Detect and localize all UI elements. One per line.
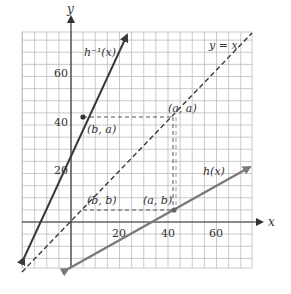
tick-label-y-40: 40 xyxy=(54,116,68,129)
point-label-a-b: (a, b) xyxy=(143,194,172,207)
point-b-a xyxy=(80,114,85,119)
x-axis-label: x xyxy=(268,215,275,229)
y-axis-label: y xyxy=(66,2,74,16)
identity-label: y = x xyxy=(208,39,238,52)
tick-label-x-60: 60 xyxy=(209,227,223,240)
function-inverse-graph: x y 20 40 60 60 40 20 h⁻¹(x) y = x h(x) … xyxy=(0,0,291,294)
point-label-b-b: (b, b) xyxy=(87,194,117,207)
point-label-b-a: (b, a) xyxy=(87,123,116,136)
tick-label-x-40: 40 xyxy=(161,227,175,240)
h-inverse-line xyxy=(24,35,127,258)
h-label: h(x) xyxy=(203,165,225,178)
tick-label-y-60: 60 xyxy=(54,67,68,80)
point-label-a-a: (a, a) xyxy=(168,102,197,115)
h-inverse-label: h⁻¹(x) xyxy=(84,46,116,59)
point-a-b xyxy=(171,207,176,212)
